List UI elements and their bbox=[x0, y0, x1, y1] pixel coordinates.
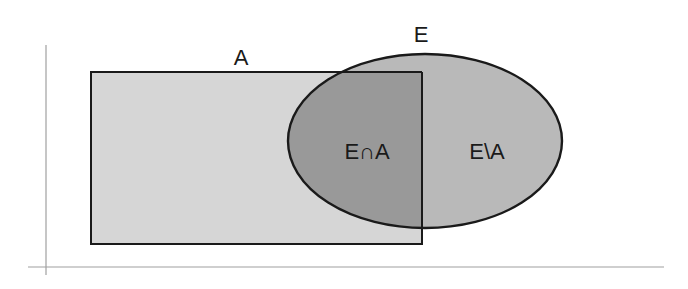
intersection-label: E∩A bbox=[344, 139, 389, 164]
venn-diagram: A E E∩A E\A bbox=[0, 0, 688, 289]
set-e-label: E bbox=[414, 22, 429, 47]
set-a-label: A bbox=[234, 45, 249, 70]
difference-label: E\A bbox=[469, 139, 505, 164]
